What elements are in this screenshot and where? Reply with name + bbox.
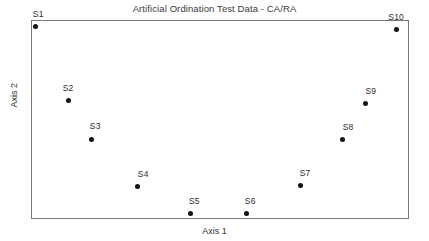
- data-point: [340, 137, 345, 142]
- data-point: [363, 101, 368, 106]
- data-point: [66, 98, 71, 103]
- data-point: [89, 137, 94, 142]
- data-point-label: S2: [63, 83, 74, 93]
- data-point-label: S1: [33, 9, 44, 19]
- chart-title: Artificial Ordination Test Data - CA/RA: [0, 3, 429, 14]
- data-point-label: S5: [189, 196, 200, 206]
- scatter-plot-area: S1S2S3S4S5S6S7S8S9S10: [31, 20, 409, 219]
- data-point: [33, 24, 38, 29]
- data-point: [188, 211, 193, 216]
- data-point-label: S9: [365, 86, 376, 96]
- data-point-label: S6: [245, 196, 256, 206]
- data-point-label: S8: [343, 122, 354, 132]
- data-point-label: S7: [300, 168, 311, 178]
- data-point: [135, 184, 140, 189]
- data-point-label: S10: [388, 12, 404, 22]
- data-point: [244, 211, 249, 216]
- x-axis-label: Axis 1: [0, 226, 429, 236]
- data-point-label: S3: [90, 121, 101, 131]
- data-point: [298, 183, 303, 188]
- chart-screenshot: Artificial Ordination Test Data - CA/RA …: [0, 0, 429, 241]
- data-point: [394, 27, 399, 32]
- data-point-label: S4: [138, 169, 149, 179]
- y-axis-label: Axis 2: [9, 97, 19, 108]
